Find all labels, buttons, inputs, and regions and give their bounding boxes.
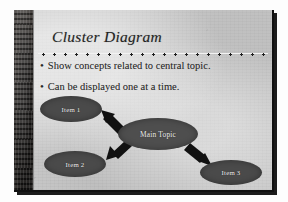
diagram-node-item-1[interactable]: Item 1 [40,96,102,122]
arrow-main-to-item3 [184,143,212,166]
node-label: Item 2 [66,161,85,168]
scanned-page: Cluster Diagram • Show concepts related … [0,0,288,202]
diagram-node-item-2[interactable]: Item 2 [44,151,106,177]
node-label: Item 3 [222,169,241,176]
diagram-node-item-3[interactable]: Item 3 [200,160,262,185]
cluster-diagram: Item 1 Main Topic Item 2 Item 3 [14,10,272,190]
presentation-slide: Cluster Diagram • Show concepts related … [14,10,274,192]
node-label: Item 1 [62,106,81,113]
diagram-node-main-topic[interactable]: Main Topic [118,118,198,150]
node-label: Main Topic [140,130,176,139]
